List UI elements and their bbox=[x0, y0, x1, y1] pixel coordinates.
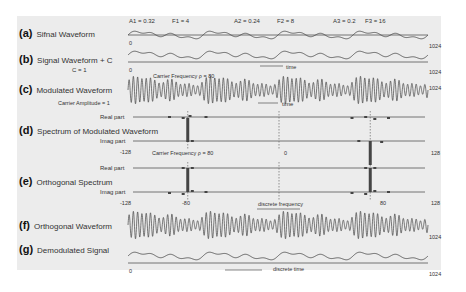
waveform-signal-plus-c bbox=[128, 51, 428, 59]
spectrum-e-component bbox=[168, 192, 171, 194]
spectrum-e-component bbox=[182, 167, 185, 169]
spectrum-d-component bbox=[191, 140, 194, 142]
spectrum-d-component bbox=[369, 141, 372, 165]
spectrum-d-component bbox=[168, 116, 171, 118]
spectrum-d-component bbox=[189, 115, 192, 117]
spectrum-d-component bbox=[380, 141, 383, 143]
spectrum-d-component bbox=[364, 116, 367, 118]
spectrum-d-component bbox=[182, 117, 185, 119]
spectrum-e-component bbox=[369, 168, 372, 192]
waveform-orthogonal bbox=[128, 211, 428, 239]
spectrum-e-component bbox=[387, 191, 390, 193]
spectrum-e-component bbox=[205, 191, 208, 193]
spectrum-d-component bbox=[357, 140, 360, 142]
spectrum-d-component bbox=[205, 116, 208, 118]
spectrum-e-component bbox=[364, 193, 367, 195]
spectrum-d-component bbox=[387, 117, 390, 119]
spectrum-e-component bbox=[373, 167, 376, 169]
spectrum-e-component bbox=[182, 193, 185, 195]
spectrum-d-component bbox=[373, 118, 376, 120]
waveform-demodulated bbox=[128, 252, 428, 260]
spectrum-e-component bbox=[351, 192, 354, 194]
spectrum-e-component bbox=[191, 167, 194, 169]
spectrum-e-component bbox=[373, 190, 376, 192]
spectrum-e-component bbox=[364, 167, 367, 169]
spectrum-d-component bbox=[186, 118, 189, 142]
spectrum-e-component bbox=[191, 190, 194, 192]
plot-canvas bbox=[0, 0, 466, 292]
spectrum-e-component bbox=[186, 168, 189, 192]
spectrum-d-component bbox=[351, 117, 354, 119]
waveform-modulated bbox=[128, 76, 428, 104]
